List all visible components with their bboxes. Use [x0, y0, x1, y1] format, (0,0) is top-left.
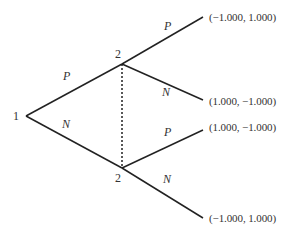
- action-label-root-P: P: [63, 70, 70, 82]
- payoff-upper-N: (1.000, −1.000): [209, 96, 276, 107]
- action-label-lower-N: N: [163, 173, 171, 185]
- action-label-root-N: N: [62, 118, 70, 130]
- edge-root-P: [26, 64, 122, 116]
- payoff-lower-N: (−1.000, 1.000): [209, 213, 276, 224]
- tree-edges: [0, 0, 298, 236]
- edge-upper-P: [122, 17, 203, 64]
- game-tree-diagram: 1 2 2 P N P N P N (−1.000, 1.000) (1.000…: [0, 0, 298, 236]
- payoff-lower-P: (1.000, −1.000): [209, 122, 276, 133]
- payoff-upper-P: (−1.000, 1.000): [209, 12, 276, 23]
- action-label-upper-N: N: [162, 86, 170, 98]
- node-label-player2-upper: 2: [115, 48, 121, 60]
- action-label-lower-P: P: [164, 126, 171, 138]
- node-label-player1: 1: [13, 110, 19, 122]
- action-label-upper-P: P: [164, 20, 171, 32]
- edge-lower-P: [122, 130, 203, 168]
- edge-root-N: [26, 116, 122, 168]
- node-label-player2-lower: 2: [115, 172, 121, 184]
